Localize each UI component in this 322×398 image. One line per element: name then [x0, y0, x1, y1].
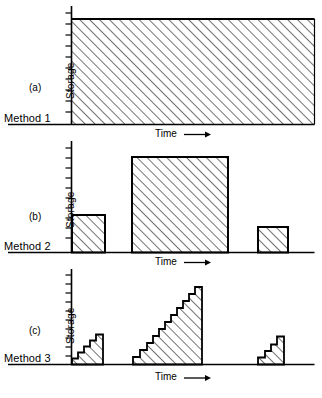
time-arrow-icon — [184, 375, 211, 381]
y-axis-label-a: Storage — [66, 63, 76, 99]
time-arrow-icon — [184, 132, 211, 138]
method-label-c: Method 3 — [4, 353, 51, 364]
staircase-ramp-3 — [258, 337, 284, 365]
pulse-bar-2 — [132, 157, 228, 253]
staircase-ramp-2 — [133, 287, 202, 365]
pulse-bar-1 — [72, 215, 105, 253]
storage-block-constant — [72, 19, 315, 125]
time-arrow-icon — [184, 260, 211, 266]
storage-methods-figure: Storage (a) Method 1 Time — [0, 0, 322, 398]
staircase-ramp-1 — [72, 335, 103, 365]
panel-letter-b: (b) — [29, 212, 41, 222]
panel-letter-c: (c) — [29, 326, 41, 336]
method-label-a: Method 1 — [4, 113, 51, 124]
panel-a: Storage (a) Method 1 Time — [0, 0, 322, 140]
pulse-bar-3 — [258, 227, 288, 253]
panel-c: Storage (c) Method 3 Time — [0, 268, 322, 398]
panel-letter-a: (a) — [29, 83, 41, 93]
y-axis-label-b: Storage — [66, 192, 76, 228]
x-axis-label-a: Time — [155, 129, 177, 139]
x-axis-label-c: Time — [155, 372, 177, 382]
y-axis-label-c: Storage — [66, 308, 76, 344]
panel-b: Storage (b) Method 2 Time — [0, 140, 322, 270]
x-axis-label-b: Time — [155, 257, 177, 267]
method-label-b: Method 2 — [4, 241, 51, 252]
